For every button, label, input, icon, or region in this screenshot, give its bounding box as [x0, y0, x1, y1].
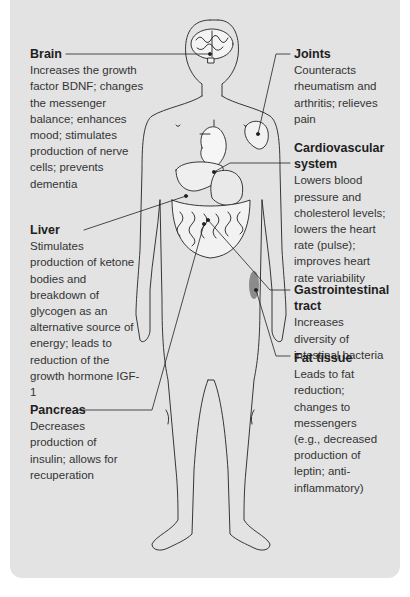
callout-title: Gastrointestinal tract: [294, 282, 386, 314]
callout-fat-tissue: Fat tissue Leads to fat reduction; chang…: [294, 350, 380, 496]
callout-cardiovascular: Cardiovascular system Lowers blood press…: [294, 140, 386, 286]
callout-description: Lowers blood pressure and cholesterol le…: [294, 172, 386, 285]
callout-title: Joints: [294, 46, 378, 62]
callout-title: Fat tissue: [294, 350, 380, 366]
callout-description: Increases the growth factor BDNF; change…: [30, 62, 148, 192]
callout-description: Leads to fat reduction; changes to messe…: [294, 366, 380, 496]
brain-icon: [191, 29, 233, 63]
callout-title: Liver: [30, 222, 140, 238]
callout-brain: Brain Increases the growth factor BDNF; …: [30, 46, 148, 192]
stomach-icon: [211, 170, 243, 205]
callout-liver: Liver Stimulates production of ketone bo…: [30, 222, 140, 400]
callout-description: Stimulates production of ketone bodies a…: [30, 238, 140, 400]
callout-title: Cardiovascular system: [294, 140, 386, 172]
callout-pancreas: Pancreas Decreases production of insulin…: [30, 402, 134, 483]
callout-description: Counteracts rheumatism and arthritis; re…: [294, 62, 378, 127]
callout-title: Pancreas: [30, 402, 134, 418]
callout-title: Brain: [30, 46, 148, 62]
heart-icon: [200, 120, 226, 168]
callout-description: Decreases production of insulin; allows …: [30, 418, 134, 483]
intestines-icon: [172, 200, 250, 258]
callout-joints: Joints Counteracts rheumatism and arthri…: [294, 46, 378, 127]
